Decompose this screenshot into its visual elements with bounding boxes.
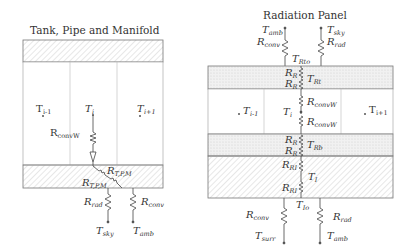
insulation-band	[208, 156, 393, 198]
resistor-conv	[130, 188, 136, 223]
label-r-conv: Rconv	[140, 196, 164, 209]
node-t-surr: Tsurr	[255, 230, 276, 243]
label-r-conv-bottom: Rconv	[245, 209, 269, 222]
label-r-conv-top: Rconv	[256, 36, 280, 49]
resistor-rad-bottom	[317, 198, 323, 244]
node-t-io: TIo	[296, 199, 309, 212]
left-diagram: Tank, Pipe and Manifold T i-1 T i T i+1	[23, 24, 164, 238]
right-diagram: Radiation Panel Tamb Rconv Tsky Rrad TRt…	[208, 9, 393, 244]
top-wall-band	[23, 40, 163, 62]
svg-text:i: i	[290, 111, 292, 119]
label-r-rad: Rrad	[83, 196, 103, 209]
svg-text:i-1: i-1	[250, 110, 258, 118]
svg-text:T: T	[369, 104, 376, 115]
svg-text:i+1: i+1	[376, 109, 388, 117]
resistor-conv-bottom	[281, 198, 287, 244]
resistor-rad-top	[318, 27, 324, 66]
label-r-rad-top: Rrad	[326, 36, 346, 49]
svg-text:i-1: i-1	[43, 108, 51, 116]
thermal-network-diagram: Tank, Pipe and Manifold T i-1 T i T i+1	[0, 0, 416, 252]
right-title: Radiation Panel	[263, 9, 348, 21]
node-t-amb-top: Tamb	[262, 24, 283, 37]
node-t-amb-bottom: Tamb	[327, 230, 348, 243]
svg-text:T: T	[36, 103, 43, 114]
svg-text:i+1: i+1	[144, 108, 156, 116]
resistor-rad	[105, 188, 111, 223]
resistor-conv-top	[282, 27, 288, 66]
node-t-rto: TRto	[292, 53, 310, 66]
node-t-sky: Tsky	[96, 225, 114, 238]
label-r-rad-bottom: Rrad	[332, 211, 352, 224]
node-t-amb: Tamb	[133, 225, 154, 238]
left-title: Tank, Pipe and Manifold	[30, 24, 160, 36]
